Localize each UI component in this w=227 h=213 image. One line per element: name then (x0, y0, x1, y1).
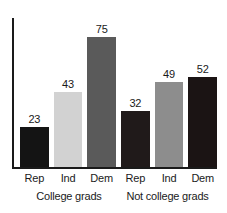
bar-series: 23 43 75 32 49 52 (20, 14, 217, 167)
group-label: College grads (20, 189, 118, 203)
bar-value-label: 52 (188, 63, 217, 75)
bar-value-label: 23 (20, 113, 49, 125)
bar-group-item: 49 (155, 14, 184, 167)
bar-group-item: 32 (121, 14, 150, 167)
x-axis-category-labels: Rep Ind Dem Rep Ind Dem (20, 171, 217, 185)
bar-rect (20, 127, 49, 167)
x-tick-label: Rep (20, 171, 49, 185)
bar-group-item: 43 (54, 14, 83, 167)
bar-rect (87, 37, 116, 167)
plot-area: 23 43 75 32 49 52 (12, 14, 217, 169)
y-axis-line (12, 18, 14, 169)
bar-value-label: 75 (87, 23, 116, 35)
x-tick-label: Dem (87, 171, 116, 185)
bar-rect (54, 92, 83, 167)
bar-rect (188, 77, 217, 167)
x-tick-label: Ind (155, 171, 184, 185)
x-tick-label: Ind (54, 171, 83, 185)
x-axis-group-labels: College grads Not college grads (20, 189, 217, 203)
bar-value-label: 32 (121, 97, 150, 109)
bar-group-item: 23 (20, 14, 49, 167)
group-label: Not college grads (118, 189, 217, 203)
bar-group-item: 75 (87, 14, 116, 167)
bar-rect (121, 111, 150, 167)
x-tick-label: Dem (188, 171, 217, 185)
bar-value-label: 49 (155, 68, 184, 80)
bar-chart: 23 43 75 32 49 52 (0, 0, 227, 213)
bar-value-label: 43 (54, 78, 83, 90)
x-axis-line (12, 167, 217, 169)
x-tick-label: Rep (121, 171, 150, 185)
bar-rect (155, 82, 184, 167)
bar-group-item: 52 (188, 14, 217, 167)
